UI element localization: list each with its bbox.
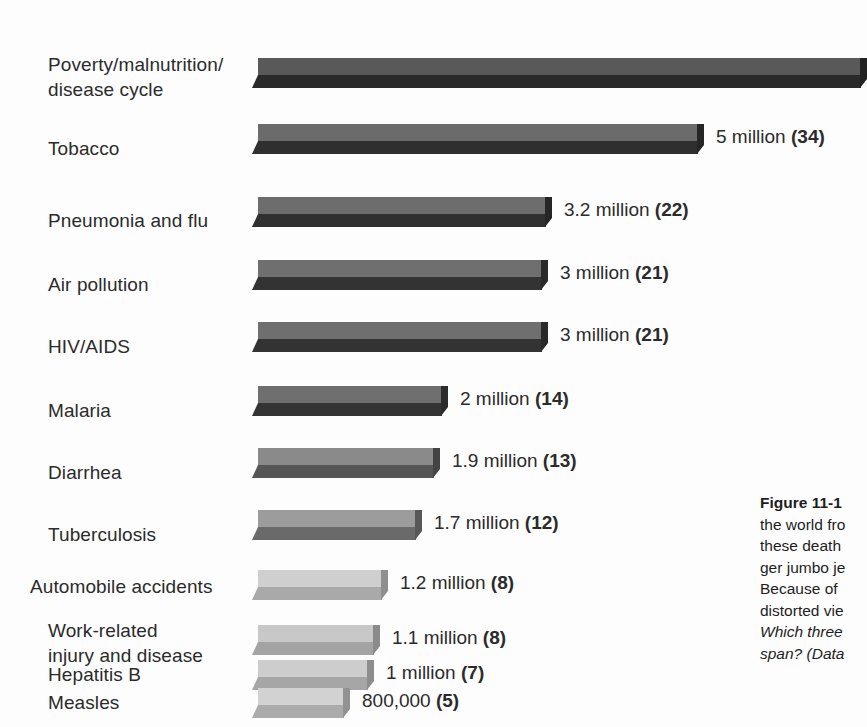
bar-value-percent: (14): [535, 388, 569, 409]
bar-front-face: [252, 214, 546, 227]
bar-value-label: 800,000 (5): [362, 690, 459, 712]
bar-end-cap: [415, 510, 422, 540]
bar-value-percent: (34): [791, 126, 825, 147]
bar-top-face: [258, 260, 548, 277]
bar-value-label: 5 million (34): [716, 126, 825, 148]
caption-question-line-1: Which three: [760, 623, 843, 640]
bar-value-label: 3 million (21): [560, 262, 669, 284]
bar: [252, 58, 867, 92]
caption-figure-number: Figure 11-1: [760, 494, 842, 511]
category-label: Measles: [48, 690, 119, 715]
bar-end-cap: [541, 260, 548, 290]
bar-top-face: [258, 660, 374, 677]
bar-value-label: 1.1 million (8): [392, 627, 506, 649]
bar-value-amount: 3 million: [560, 262, 635, 283]
category-label: Malaria: [48, 398, 111, 423]
bar-top-face: [258, 58, 867, 75]
bar: [252, 260, 548, 294]
bar-top-face: [258, 386, 448, 403]
category-label: Diarrhea: [48, 460, 122, 485]
bar-value-percent: (8): [491, 572, 514, 593]
bar-top-face: [258, 510, 422, 527]
bar: [252, 688, 350, 722]
caption-line-2: these death: [760, 537, 841, 554]
bar-value-label: 1.7 million (12): [434, 512, 559, 534]
bar-value-label: 1.2 million (8): [400, 572, 514, 594]
bar: [252, 386, 448, 420]
bar-top-face: [258, 197, 552, 214]
bar-front-face: [252, 75, 861, 88]
bar-value-label: 1 million (7): [386, 662, 484, 684]
bar: [252, 124, 704, 158]
bar-end-cap: [343, 688, 350, 718]
bar: [252, 510, 422, 544]
bar-front-face: [252, 705, 344, 718]
bar-end-cap: [541, 322, 548, 352]
bar: [252, 322, 548, 356]
bar-value-percent: (5): [436, 690, 459, 711]
bar-value-percent: (21): [635, 324, 669, 345]
caption-line-1: the world fro: [760, 516, 845, 533]
category-label: Poverty/malnutrition/ disease cycle: [48, 52, 223, 102]
bar-end-cap: [441, 386, 448, 416]
bar-end-cap: [545, 197, 552, 227]
bar-value-label: 1.9 million (13): [452, 450, 577, 472]
horizontal-bar-chart: Poverty/malnutrition/ disease cycleTobac…: [0, 0, 867, 727]
bar-value-label: 2 million (14): [460, 388, 569, 410]
bar-front-face: [252, 587, 382, 600]
category-label: Work-related injury and disease: [48, 618, 203, 668]
category-label: HIV/AIDS: [48, 334, 130, 359]
bar-value-amount: 1.2 million: [400, 572, 491, 593]
bar-value-label: 3.2 million (22): [564, 199, 689, 221]
bar-front-face: [252, 642, 374, 655]
bar-top-face: [258, 124, 704, 141]
category-label: Tuberculosis: [48, 522, 156, 547]
bar-top-face: [258, 322, 548, 339]
category-label: Tobacco: [48, 136, 119, 161]
bar-value-percent: (7): [461, 662, 484, 683]
bar: [252, 197, 552, 231]
figure-container: Poverty/malnutrition/ disease cycleTobac…: [0, 0, 867, 727]
caption-line-3: ger jumbo je: [760, 559, 845, 576]
bar-value-percent: (21): [635, 262, 669, 283]
bar-value-amount: 800,000: [362, 690, 436, 711]
bar-end-cap: [373, 625, 380, 655]
caption-line-5: distorted vie: [760, 602, 844, 619]
bar-value-percent: (22): [655, 199, 689, 220]
bar-value-percent: (12): [525, 512, 559, 533]
bar-top-face: [258, 625, 380, 642]
bar-front-face: [252, 527, 416, 540]
bar-top-face: [258, 688, 350, 705]
bar-value-label: 3 million (21): [560, 324, 669, 346]
bar: [252, 570, 388, 604]
bar-value-amount: 5 million: [716, 126, 791, 147]
bar-value-amount: 3 million: [560, 324, 635, 345]
bar-front-face: [252, 339, 542, 352]
bar-value-amount: 1.7 million: [434, 512, 525, 533]
bar-end-cap: [860, 58, 867, 88]
figure-caption: Figure 11-1 the world fro these death ge…: [760, 492, 867, 664]
bar-front-face: [252, 141, 698, 154]
bar-end-cap: [433, 448, 440, 478]
bar: [252, 625, 380, 659]
bar-end-cap: [381, 570, 388, 600]
bar-value-percent: (8): [483, 627, 506, 648]
caption-line-4: Because of: [760, 580, 838, 597]
bar-value-percent: (13): [543, 450, 577, 471]
category-label: Pneumonia and flu: [48, 208, 208, 233]
bar: [252, 448, 440, 482]
caption-question-line-2: span? (Data: [760, 645, 844, 662]
bar-value-amount: 2 million: [460, 388, 535, 409]
bar-front-face: [252, 277, 542, 290]
bar-end-cap: [697, 124, 704, 154]
bar-value-amount: 3.2 million: [564, 199, 655, 220]
category-label: Hepatitis B: [48, 662, 141, 687]
bar-top-face: [258, 570, 388, 587]
category-label: Automobile accidents: [30, 574, 213, 599]
bar-front-face: [252, 403, 442, 416]
bar-top-face: [258, 448, 440, 465]
bar-end-cap: [367, 660, 374, 690]
category-label: Air pollution: [48, 272, 149, 297]
bar-value-amount: 1 million: [386, 662, 461, 683]
bar-value-amount: 1.9 million: [452, 450, 543, 471]
